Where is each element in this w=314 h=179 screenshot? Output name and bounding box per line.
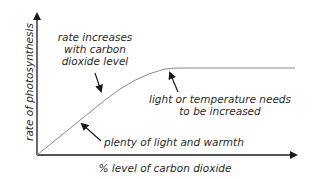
annotation-line: with carbon [50,43,140,55]
annotation-line: rate increases [50,31,140,43]
diagram-canvas [0,0,314,179]
arrow-plenty-light [82,124,101,141]
annotation-light-or-temperature: light or temperature needs to be increas… [140,93,300,117]
annotation-rate-increases: rate increases with carbon dioxide level [50,31,140,67]
annotation-line: dioxide level [50,55,140,67]
arrow-rate-increases [95,73,101,91]
annotation-line: light or temperature needs [140,93,300,105]
arrow-plateau [170,73,178,92]
y-axis-label: rate of photosynthesis [23,7,35,157]
annotation-line: to be increased [140,105,300,117]
annotation-plenty-of-light: plenty of light and warmth [104,136,244,148]
x-axis-label: % level of carbon dioxide [80,162,250,174]
